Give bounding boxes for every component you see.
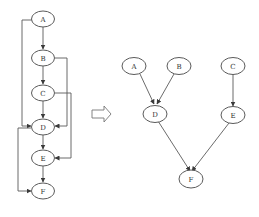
right-node-f: F (179, 170, 203, 188)
right-graph: A B C D E F (122, 58, 245, 189)
node-label: E (230, 112, 235, 120)
transform-arrow-icon (92, 106, 111, 122)
node-label: C (230, 63, 235, 71)
node-label: C (40, 90, 45, 98)
diagram-canvas: A B C D E F A (0, 0, 259, 217)
left-node-e: E (32, 150, 55, 166)
left-node-b: B (32, 50, 55, 66)
node-label: A (39, 16, 46, 24)
edge-right-d-f (158, 121, 190, 171)
left-node-f: F (32, 183, 55, 199)
edge-right-a-d (140, 74, 154, 104)
edge-right-b-d (157, 74, 174, 104)
node-label: F (189, 176, 194, 184)
right-node-e: E (221, 107, 245, 124)
right-node-c: C (221, 58, 245, 75)
right-node-b: B (167, 58, 191, 75)
edge-left-a-d (22, 20, 32, 126)
left-node-d: D (32, 119, 55, 135)
edge-left-c-e (55, 93, 71, 158)
node-label: B (176, 63, 181, 71)
node-label: F (41, 188, 46, 196)
right-node-d: D (143, 106, 167, 123)
left-node-c: C (32, 85, 55, 101)
left-node-a: A (32, 11, 55, 27)
right-node-a: A (122, 58, 146, 75)
node-label: A (130, 63, 137, 71)
node-label: B (40, 55, 45, 63)
edge-right-e-f (192, 123, 229, 171)
node-label: D (152, 111, 158, 119)
node-label: D (40, 124, 46, 132)
edge-left-d-f (18, 128, 31, 191)
node-label: E (40, 155, 45, 163)
edge-left-b-d (55, 58, 67, 126)
left-graph: A B C D E F (18, 11, 71, 199)
